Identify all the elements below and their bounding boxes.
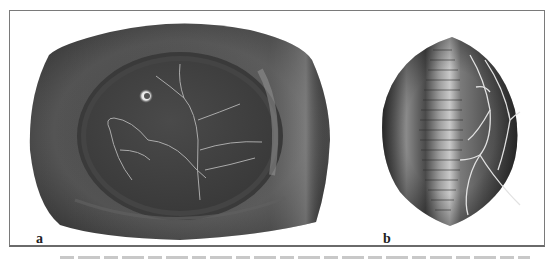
panel-b-illustration — [382, 37, 520, 226]
figure-caption-cut-off — [60, 252, 530, 259]
panel-a-label: a — [36, 231, 43, 246]
panel-a-illustration — [30, 23, 330, 240]
panel-b-label: b — [383, 231, 391, 246]
figure-artwork: a — [0, 0, 558, 259]
